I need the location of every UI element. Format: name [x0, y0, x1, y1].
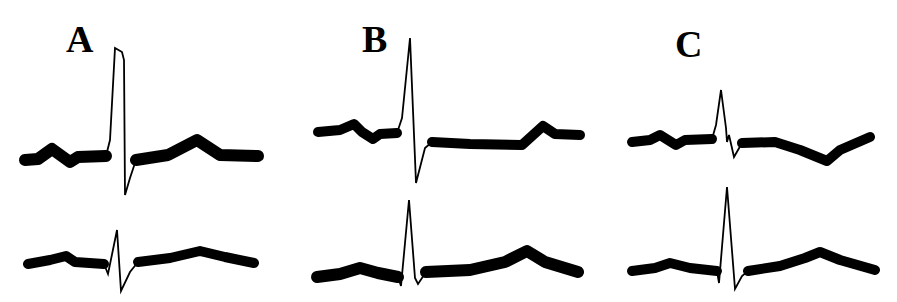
lower-trace [28, 230, 254, 291]
t-wave-segment [426, 251, 578, 272]
upper-trace [632, 90, 870, 161]
lower-trace [632, 187, 875, 289]
p-wave-segment [317, 268, 398, 277]
p-wave-segment [632, 263, 717, 271]
ecg-panel-b [317, 38, 580, 286]
upper-trace [318, 38, 580, 183]
ecg-panel-c [632, 90, 875, 289]
qrs-complex [717, 187, 748, 289]
p-wave-segment [632, 135, 712, 145]
t-wave-segment [742, 137, 870, 161]
t-wave-segment [748, 252, 875, 271]
p-wave-segment [318, 124, 397, 139]
p-wave-segment [28, 256, 104, 264]
t-wave-segment [138, 251, 254, 263]
qrs-complex [104, 230, 138, 291]
t-wave-segment [136, 140, 258, 160]
upper-trace [25, 48, 258, 195]
qrs-complex [106, 48, 136, 195]
qrs-complex [397, 38, 432, 183]
ecg-traces [0, 0, 897, 302]
p-wave-segment [25, 149, 106, 162]
lower-trace [317, 200, 578, 286]
t-wave-segment [432, 126, 580, 145]
qrs-complex [712, 90, 742, 157]
ecg-panel-a [25, 48, 258, 291]
